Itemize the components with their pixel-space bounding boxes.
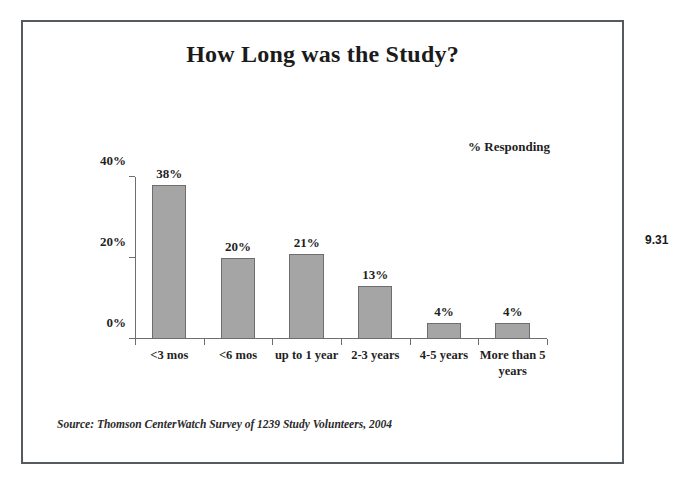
x-axis-tick <box>341 339 342 345</box>
source-note: Source: Thomson CenterWatch Survey of 12… <box>57 418 392 430</box>
bar[interactable] <box>427 323 461 339</box>
x-axis-tick <box>547 339 548 345</box>
bar[interactable] <box>358 286 392 339</box>
x-axis-tick <box>410 339 411 345</box>
bar-value-label: 13% <box>341 267 410 283</box>
bar[interactable] <box>221 258 255 339</box>
page-title: How Long was the Study? <box>23 41 622 68</box>
slide-number: 9.31 <box>645 233 668 247</box>
x-axis-tick <box>272 339 273 345</box>
y-axis-tick-label: 20% <box>100 234 126 250</box>
x-axis-tick <box>204 339 205 345</box>
x-axis-tick <box>135 339 136 345</box>
bar-value-label: 4% <box>410 304 479 320</box>
bar[interactable] <box>152 185 186 339</box>
bar-slot: 13%2-3 years <box>341 177 410 339</box>
x-axis-tick <box>478 339 479 345</box>
bar-value-label: 21% <box>272 235 341 251</box>
bar-slot: 38%<3 mos <box>135 177 204 339</box>
slide-frame: How Long was the Study? % Responding 0%2… <box>21 20 624 464</box>
bar[interactable] <box>495 323 529 339</box>
bar-slot: 21%up to 1 year <box>272 177 341 339</box>
bar-slot: 20%<6 mos <box>204 177 273 339</box>
bar-slot: 4%4-5 years <box>410 177 479 339</box>
bar-value-label: 4% <box>478 304 547 320</box>
bar-value-label: 20% <box>204 239 273 255</box>
y-axis-tick-label: 40% <box>100 153 126 169</box>
chart-plot-area: 0%20%40% 38%<3 mos20%<6 mos21%up to 1 ye… <box>135 177 547 339</box>
x-axis-category-label: More than 5 years <box>472 347 553 379</box>
y-axis-unit-label: % Responding <box>468 139 550 155</box>
bar[interactable] <box>289 254 323 339</box>
bar-slot: 4%More than 5 years <box>478 177 547 339</box>
bar-value-label: 38% <box>135 166 204 182</box>
y-axis-tick-label: 0% <box>107 315 127 331</box>
